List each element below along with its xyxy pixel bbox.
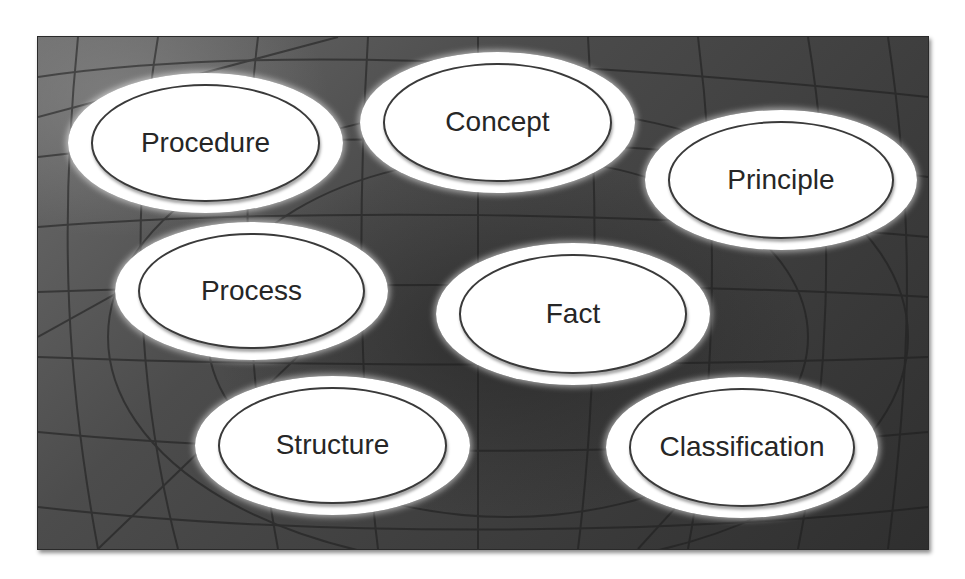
node-label: Procedure xyxy=(141,127,270,159)
node-label: Principle xyxy=(727,164,834,196)
node-label: Process xyxy=(201,275,302,307)
node-principle-ellipse: Principle xyxy=(668,121,894,239)
node-structure: Structure xyxy=(195,376,470,515)
node-fact-ellipse: Fact xyxy=(459,254,686,373)
node-structure-ellipse: Structure xyxy=(218,387,446,504)
node-procedure: Procedure xyxy=(68,73,343,213)
node-process-ellipse: Process xyxy=(138,233,365,349)
node-fact: Fact xyxy=(436,243,710,385)
node-classification: Classification xyxy=(606,377,878,518)
node-principle: Principle xyxy=(645,110,917,250)
node-concept-ellipse: Concept xyxy=(383,63,611,181)
node-label: Fact xyxy=(546,298,600,330)
node-label: Classification xyxy=(660,431,825,463)
node-label: Concept xyxy=(445,106,549,138)
node-concept: Concept xyxy=(360,52,635,193)
node-classification-ellipse: Classification xyxy=(629,388,855,506)
node-label: Structure xyxy=(276,429,390,461)
node-procedure-ellipse: Procedure xyxy=(91,84,319,202)
node-process: Process xyxy=(115,222,388,360)
